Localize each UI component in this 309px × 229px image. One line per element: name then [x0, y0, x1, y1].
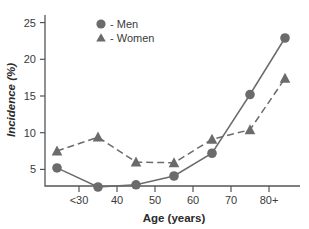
- x-tick-label: 40: [111, 194, 123, 206]
- data-point-men-80+: [280, 33, 290, 43]
- data-point-men-65: [207, 148, 217, 158]
- data-point-men-35: [93, 182, 103, 192]
- x-tick-label: 70: [225, 194, 237, 206]
- legend-marker-circle-men: [96, 19, 105, 28]
- x-axis-title: Age (years): [143, 212, 206, 224]
- x-tick-label: 50: [149, 194, 161, 206]
- y-tick-label: 25: [24, 17, 36, 29]
- x-tick-label: <30: [70, 194, 89, 206]
- y-tick-label: 5: [30, 163, 36, 175]
- data-point-men-<30: [52, 163, 62, 173]
- legend-label-men: - Men: [110, 18, 138, 30]
- data-point-men-45: [131, 180, 141, 190]
- x-tick-label: 60: [187, 194, 199, 206]
- data-point-men-75: [245, 90, 255, 100]
- y-tick-label: 10: [24, 127, 36, 139]
- x-tick-label: 80+: [260, 194, 279, 206]
- chart-canvas: 25 20 15 10 5 <30 40 50 60 70 80+ Age (y…: [0, 0, 309, 229]
- y-tick-label: 20: [24, 53, 36, 65]
- incidence-by-age-chart: 25 20 15 10 5 <30 40 50 60 70 80+ Age (y…: [0, 0, 309, 229]
- data-point-men-55: [169, 171, 179, 181]
- legend-label-women: - Women: [110, 32, 154, 44]
- y-tick-label: 15: [24, 90, 36, 102]
- y-axis-title: Incidence (%): [5, 63, 17, 137]
